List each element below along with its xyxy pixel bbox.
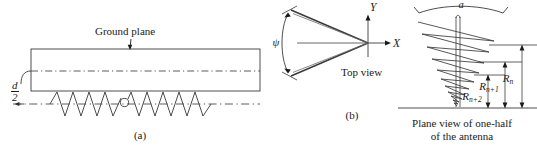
Rn1-arrowhead-top: [503, 62, 508, 68]
feed-point-circle: [120, 98, 128, 106]
panel-a-caption: (a): [134, 129, 147, 142]
top-view-label: Top view: [341, 66, 382, 78]
panel-b-top-view: ψ Y X Top view (b): [273, 1, 401, 122]
helix-zigzag-right: [128, 92, 211, 116]
psi-arc-arrowhead-bottom: [284, 68, 291, 73]
panel-a: (a): [13, 39, 260, 142]
axis-y-label: Y: [370, 1, 378, 13]
width-label-a: a: [458, 0, 463, 10]
spacing-fraction-label: d 2: [11, 80, 19, 103]
axis-x-arrowhead: [385, 41, 391, 46]
Rn-label: Rn: [502, 72, 514, 86]
ground-plane-rect: [31, 49, 260, 91]
psi-angle-label: ψ: [273, 36, 280, 48]
wedge-tick-lower: [282, 72, 297, 80]
width-brace-tick-left: [414, 7, 419, 13]
Rn-arrowhead-top: [520, 45, 525, 51]
psi-arc-arrowhead-top: [284, 12, 291, 17]
axis-x-label: X: [392, 37, 401, 49]
psi-angle-arc: [282, 14, 288, 72]
spacing-numerator: d: [11, 80, 19, 91]
ground-plane-label: Ground plane: [95, 26, 155, 37]
wedge-tick-upper: [282, 6, 297, 14]
spacing-denominator: 2: [11, 91, 19, 103]
width-brace-tick-right: [503, 7, 508, 13]
wedge-arm-upper-inner: [293, 14, 368, 43]
panel-c-caption-line1: Plane view of one-half: [412, 117, 512, 129]
Rn2-label: Rn+2: [461, 90, 482, 104]
panel-b-caption: (b): [346, 109, 359, 122]
panel-c-caption-line2: of the antenna: [431, 130, 493, 142]
antenna-axis-cap: [456, 15, 460, 18]
panel-c-plane-view: a Rn Rn+1 Rn+2 Plane view of one-half of…: [398, 0, 537, 142]
antenna-figure: (a) ψ Y X Top view (b): [0, 0, 537, 155]
axis-y-arrowhead: [366, 15, 371, 21]
Rn1-label: Rn+1: [478, 80, 498, 94]
spacing-leader-curve: [21, 71, 31, 84]
